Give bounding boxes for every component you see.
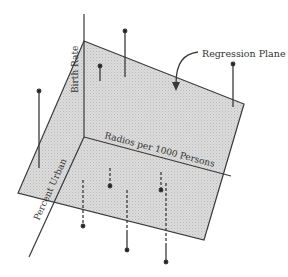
data-point: [123, 29, 127, 33]
data-point: [81, 224, 85, 228]
birth-rate-label: Birth Rate: [70, 46, 80, 93]
regression-plane-label: Regression Plane: [202, 48, 286, 59]
data-point: [108, 184, 112, 188]
data-point: [37, 89, 41, 93]
data-point: [231, 62, 235, 66]
data-point: [159, 188, 163, 192]
data-point: [125, 248, 129, 252]
data-point: [98, 64, 102, 68]
data-point: [164, 260, 168, 264]
regression-plane-diagram: Regression Plane Birth Rate Radios per 1…: [0, 0, 288, 277]
